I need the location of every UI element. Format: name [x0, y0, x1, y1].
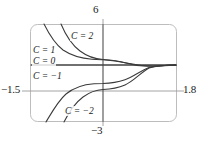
plot-canvas — [0, 0, 201, 142]
y-min-tick-label: −3 — [91, 124, 102, 136]
curve-label-c-minus-1: C = −1 — [32, 71, 63, 81]
x-max-tick-label: 1.8 — [183, 83, 196, 95]
curve-label-c-minus-2: C = −2 — [64, 106, 95, 116]
curve-label-c1: C = 1 — [32, 45, 56, 55]
curve-label-c0: C = 0 — [32, 56, 56, 66]
x-min-tick-label: −1.5 — [1, 83, 20, 95]
curve-label-c2: C = 2 — [70, 31, 94, 41]
y-max-tick-label: 6 — [93, 3, 98, 15]
solution-curves-figure: 6 −3 −1.5 1.8 C = 2 C = 1 C = 0 C = −1 C… — [0, 0, 201, 142]
